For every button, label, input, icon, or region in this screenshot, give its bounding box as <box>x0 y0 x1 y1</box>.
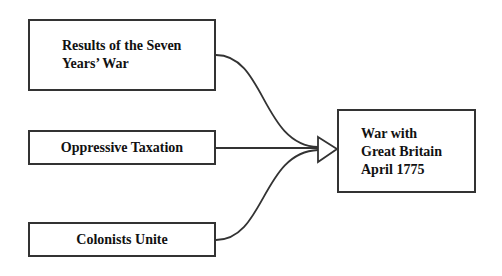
connector-cause-1 <box>216 55 318 147</box>
cause-box-colonists-unite: Colonists Unite <box>28 222 216 257</box>
effect-box-war-with-great-britain: War with Great Britain April 1775 <box>337 109 476 193</box>
cause-label: Oppressive Taxation <box>61 139 183 157</box>
connector-cause-3 <box>216 150 318 240</box>
arrowhead-icon <box>318 137 337 162</box>
diagram-canvas: Results of the Seven Years’ War Oppressi… <box>0 0 502 276</box>
cause-label: Results of the Seven Years’ War <box>62 37 192 73</box>
cause-box-oppressive-taxation: Oppressive Taxation <box>28 130 216 165</box>
cause-label: Colonists Unite <box>76 231 167 249</box>
cause-box-seven-years-war: Results of the Seven Years’ War <box>28 19 216 91</box>
effect-label: War with Great Britain April 1775 <box>361 125 474 179</box>
